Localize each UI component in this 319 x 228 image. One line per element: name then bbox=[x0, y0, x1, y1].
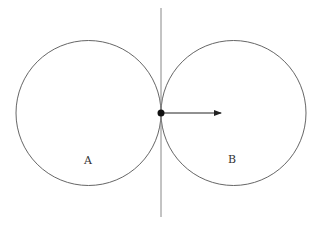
label-a: A bbox=[83, 154, 93, 167]
diagram-canvas: A B bbox=[0, 0, 319, 228]
contact-point-dot bbox=[158, 110, 165, 117]
label-b: B bbox=[228, 153, 236, 166]
